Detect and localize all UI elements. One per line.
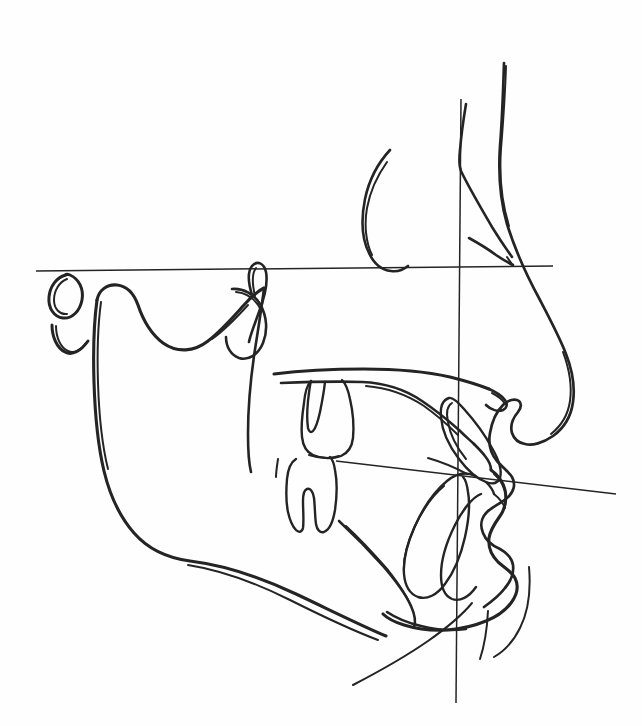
ceph-tracing-svg [0, 0, 642, 726]
paper-background [0, 0, 642, 726]
cephalometric-tracing-canvas [0, 0, 642, 726]
